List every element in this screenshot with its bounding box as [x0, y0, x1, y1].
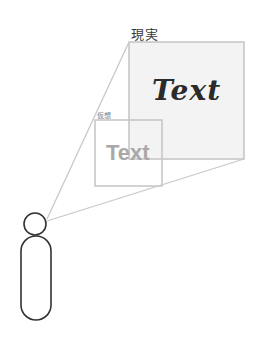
virtual-text: Text	[106, 140, 150, 166]
reality-label: 現実	[131, 24, 158, 43]
reality-text: Text	[152, 74, 221, 107]
diagram-graphics	[0, 0, 264, 346]
virtual-label: 仮想	[97, 110, 111, 120]
sightline-upper	[47, 42, 129, 219]
person-body-icon	[21, 236, 51, 320]
diagram-canvas: 現実 仮想 Text Text	[0, 0, 264, 346]
sightline-lower	[47, 159, 244, 221]
person-head-icon	[24, 213, 46, 235]
